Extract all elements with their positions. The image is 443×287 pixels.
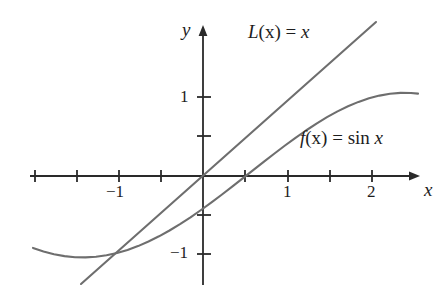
linear-func-arg: (x) <box>259 21 281 42</box>
x-tick-label--1: −1 <box>106 183 124 200</box>
linear-function-annotation: L(x) = x <box>248 22 309 41</box>
y-axis-arrowhead <box>199 25 208 36</box>
sine-func-expr: x <box>375 127 383 148</box>
x-axis-arrowhead <box>409 172 420 181</box>
sine-function-annotation: f(x) = sin x <box>300 128 383 147</box>
x-tick-label-2: 2 <box>367 183 376 200</box>
sine-equals-sign: = <box>332 127 343 148</box>
sine-linear-approximation-figure: y x −1 1 2 1 −1 L(x) = x f(x) = sin x <box>0 0 443 287</box>
linear-func-name: L <box>248 21 259 42</box>
y-tick-label-1: 1 <box>180 88 189 105</box>
x-axis-label: x <box>424 180 432 199</box>
linear-func-expr: x <box>301 21 309 42</box>
y-axis-label: y <box>182 20 190 39</box>
sine-func-arg: (x) <box>305 127 327 148</box>
linear-approximation-line <box>81 22 376 284</box>
y-tick-label--1: −1 <box>170 244 188 261</box>
sine-operator: sin <box>348 127 370 148</box>
x-tick-label-1: 1 <box>283 183 292 200</box>
linear-equals-sign: = <box>285 21 296 42</box>
